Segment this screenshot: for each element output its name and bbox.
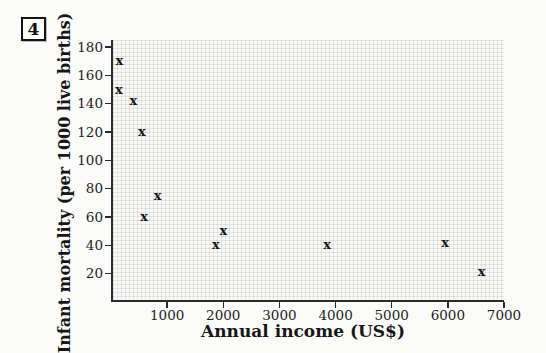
plot-area [111,40,504,302]
data-point-marker: x [140,210,148,223]
data-point-marker: x [116,54,124,67]
y-tick-label: 20 [63,267,103,281]
y-tick-mark [105,216,111,218]
y-tick-mark [105,131,111,133]
y-tick-label: 180 [63,41,103,55]
y-tick-mark [105,273,111,275]
y-tick-mark [105,75,111,77]
data-point-marker: x [441,236,449,249]
y-tick-mark [105,160,111,162]
y-tick-mark [105,103,111,105]
x-axis-title: Annual income (US$) [201,321,405,341]
data-point-marker: x [115,83,123,96]
x-tick-label: 1000 [145,309,189,323]
y-tick-mark [105,188,111,190]
data-point-marker: x [478,265,486,278]
data-point-marker: x [323,239,331,252]
y-tick-mark [105,245,111,247]
data-point-marker: x [154,189,162,202]
y-tick-label: 120 [63,126,103,140]
y-tick-label: 40 [63,239,103,253]
data-point-marker: x [130,94,138,107]
y-tick-label: 80 [63,182,103,196]
data-point-marker: x [138,125,146,138]
y-tick-label: 100 [63,154,103,168]
y-tick-label: 160 [63,69,103,83]
data-point-marker: x [212,239,220,252]
x-tick-label: 7000 [482,309,526,323]
y-tick-label: 60 [63,211,103,225]
x-tick-label: 6000 [426,309,470,323]
data-point-marker: x [219,224,227,237]
figure-number-badge: 4 [21,17,46,41]
figure-number: 4 [28,19,40,39]
y-tick-label: 140 [63,97,103,111]
y-tick-mark [105,46,111,48]
